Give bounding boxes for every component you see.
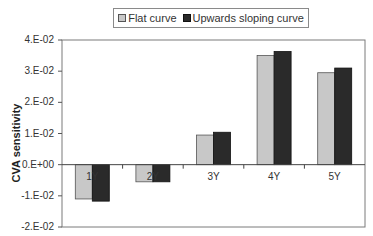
x-tick-label: 5Y [320, 171, 350, 182]
plot-area [0, 0, 373, 236]
bar-flat-curve-4Y [257, 56, 274, 165]
bar-flat-curve-5Y [318, 73, 335, 165]
x-tick-label: 1Y [77, 171, 107, 182]
x-tick-label: 3Y [199, 171, 229, 182]
bar-upwards-sloping-curve-5Y [335, 68, 352, 165]
x-tick-label: 4Y [259, 171, 289, 182]
x-tick-label: 2Y [138, 171, 168, 182]
bar-flat-curve-3Y [197, 135, 214, 165]
bar-upwards-sloping-curve-4Y [274, 52, 291, 165]
bar-upwards-sloping-curve-3Y [214, 132, 231, 164]
